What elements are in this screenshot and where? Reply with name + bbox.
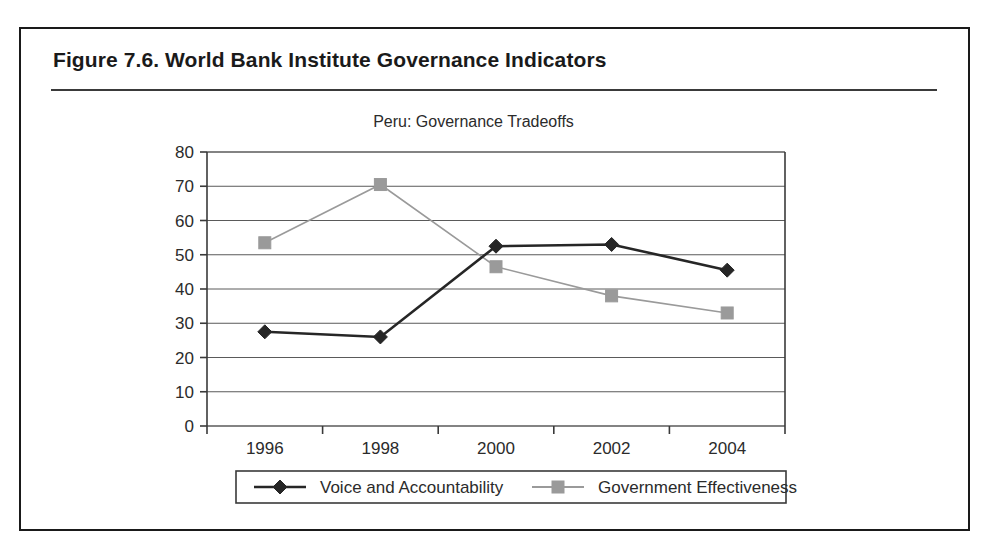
y-tick-label-70: 70 (175, 177, 194, 196)
x-tick-label-1996: 1996 (246, 439, 284, 458)
x-tick-label-2000: 2000 (477, 439, 515, 458)
legend-square-marker (552, 481, 564, 493)
legend-label-1: Government Effectiveness (598, 478, 797, 497)
legend-label-0: Voice and Accountability (320, 478, 504, 497)
y-tick-label-20: 20 (175, 349, 194, 368)
data-point-2004 (721, 307, 733, 319)
y-tick-label-60: 60 (175, 212, 194, 231)
y-tick-label-10: 10 (175, 383, 194, 402)
y-tick-label-0: 0 (185, 417, 194, 436)
x-tick-label-2002: 2002 (593, 439, 631, 458)
chart-plot-container: 0102030405060708019961998200020022004Voi… (21, 29, 968, 529)
x-tick-label-1998: 1998 (361, 439, 399, 458)
y-tick-label-50: 50 (175, 246, 194, 265)
chart-svg: 0102030405060708019961998200020022004Voi… (21, 29, 968, 529)
y-tick-label-80: 80 (175, 143, 194, 162)
y-tick-label-40: 40 (175, 280, 194, 299)
y-tick-label-30: 30 (175, 314, 194, 333)
data-point-1996 (259, 237, 271, 249)
data-point-2000 (490, 261, 502, 273)
figure-frame: Figure 7.6. World Bank Institute Governa… (19, 27, 970, 531)
x-tick-label-2004: 2004 (708, 439, 746, 458)
data-point-2002 (606, 290, 618, 302)
data-point-1998 (374, 179, 386, 191)
